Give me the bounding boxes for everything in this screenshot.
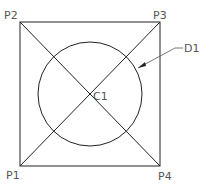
diagram-canvas: P2 P3 P1 P4 C1 D1	[0, 0, 209, 188]
arrowhead-icon	[138, 62, 146, 68]
label-c1: C1	[93, 90, 108, 103]
label-p2: P2	[4, 9, 18, 22]
label-p1: P1	[6, 169, 20, 182]
label-p3: P3	[153, 9, 167, 22]
label-p4: P4	[158, 170, 172, 183]
label-d1: D1	[184, 42, 199, 55]
